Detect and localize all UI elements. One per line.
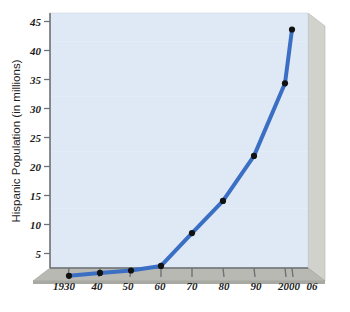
x-tick-label: 70	[187, 280, 199, 292]
data-point-marker	[251, 153, 257, 159]
y-axis-ticks	[44, 22, 50, 254]
y-tick-label: 20	[29, 161, 42, 173]
y-tick-label: 40	[29, 45, 42, 57]
y-axis-tick-labels: 45 40 35 30 25 20 15 10 5	[29, 16, 42, 260]
data-point-marker	[97, 270, 103, 276]
data-point-marker	[282, 80, 288, 86]
x-tick-label: 2000	[277, 280, 301, 292]
y-axis-title: Hispanic Population (in millions)	[10, 59, 22, 222]
y-tick-label: 35	[29, 74, 42, 86]
y-tick-label: 45	[29, 16, 42, 28]
x-tick-label: 90	[251, 280, 263, 292]
y-tick-label: 25	[29, 132, 42, 144]
x-tick-label: 40	[91, 280, 104, 292]
x-tick-label: 80	[219, 280, 231, 292]
data-point-marker	[158, 263, 164, 269]
y-tick-label: 10	[30, 219, 42, 231]
data-point-marker	[128, 267, 134, 273]
chart-svg: 45 40 35 30 25 20 15 10 5 Hispanic Popul…	[0, 0, 350, 312]
data-point-marker	[189, 230, 195, 236]
x-tick-label: 1930	[53, 280, 76, 292]
y-tick-label: 30	[29, 103, 42, 115]
plot-background-panel	[50, 13, 308, 268]
x-tick-label: 50	[123, 280, 135, 292]
x-tick-label: 60	[155, 280, 167, 292]
data-point-marker	[220, 198, 226, 204]
chart-figure: 45 40 35 30 25 20 15 10 5 Hispanic Popul…	[0, 0, 350, 312]
y-tick-label: 5	[36, 248, 42, 260]
y-tick-label: 15	[30, 190, 42, 202]
panel-right-face	[308, 13, 325, 281]
data-point-marker	[66, 273, 72, 279]
x-tick-label: 06	[307, 280, 319, 292]
data-point-marker	[289, 26, 295, 32]
